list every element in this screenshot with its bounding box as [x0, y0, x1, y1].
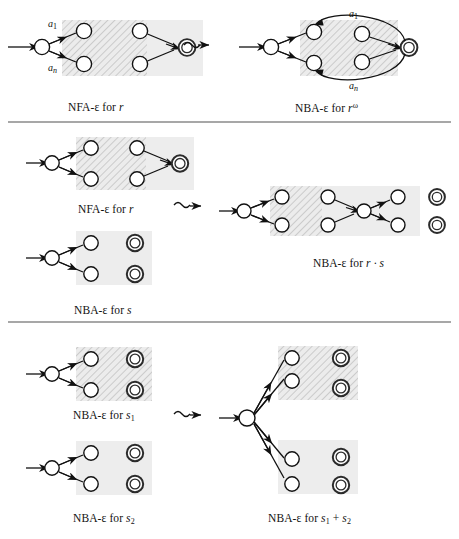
caption-nfa-r-2: NFA-ε for r: [78, 203, 134, 215]
state-node: [84, 141, 98, 155]
edge-label-an-result: an: [349, 80, 358, 93]
state-node: [132, 23, 147, 38]
transition-edge-arrow: [59, 262, 73, 268]
transition-edge-arrow: [251, 203, 265, 209]
accepting-state-inner: [130, 448, 140, 458]
accepting-state-inner: [175, 159, 185, 169]
merge-state-node: [357, 204, 371, 218]
state-node: [321, 190, 335, 204]
transition-edge-arrow: [59, 154, 73, 160]
accepting-state-inner: [432, 192, 441, 201]
transition-edge-arrow: [278, 51, 292, 57]
panel-union-result: [219, 346, 358, 494]
state-node: [391, 190, 405, 204]
transition-edge-arrow: [49, 39, 63, 45]
state-node: [84, 383, 98, 397]
initial-state-node: [45, 156, 59, 170]
state-node: [84, 446, 98, 460]
initial-state-node: [34, 39, 49, 54]
transition-edge-arrow: [251, 215, 265, 221]
edge-label-a1-result: a1: [349, 8, 358, 21]
transition-edge-arrow: [59, 365, 73, 371]
caption-nfa-r: NFA-ε for r: [68, 101, 124, 113]
state-node: [76, 23, 91, 38]
state-node: [306, 24, 321, 39]
state-node: [275, 190, 289, 204]
initial-state-node: [263, 39, 278, 54]
transition-edge-arrow: [59, 167, 73, 173]
initial-state-node: [45, 367, 59, 381]
state-node: [354, 54, 369, 69]
panel-omega-source: [8, 20, 203, 76]
accepting-state-inner: [130, 354, 140, 364]
transition-edge-arrow: [278, 39, 292, 45]
squiggly-arrow-2: [174, 203, 201, 208]
state-node: [354, 26, 369, 41]
initial-state-node: [45, 251, 59, 265]
accepting-state-inner: [432, 220, 441, 229]
accepting-state-inner: [130, 385, 140, 395]
state-node: [306, 55, 321, 70]
automata-construction-figure: a1 an a1 an NFA-ε for r NBA-ε for rω NFA…: [0, 0, 459, 539]
edge-label-an: an: [48, 62, 57, 75]
state-node: [391, 218, 405, 232]
accepting-state-inner: [130, 238, 140, 248]
figure-canvas: [0, 0, 459, 539]
state-node: [285, 374, 299, 388]
initial-state-node: [45, 461, 59, 475]
caption-nba-r-omega: NBA-ε for rω: [295, 101, 358, 114]
initial-state-node: [237, 204, 251, 218]
accepting-state-inner: [404, 42, 414, 52]
caption-nba-s: NBA-ε for s: [74, 304, 132, 316]
caption-nba-r-dot-s: NBA-ε for r · s: [313, 257, 384, 269]
state-node: [285, 477, 299, 491]
caption-nba-s2: NBA-ε for s2: [73, 512, 135, 526]
state-node: [285, 351, 299, 365]
state-node: [132, 56, 147, 71]
panel-union-source-s1: [26, 347, 152, 401]
accepting-state-inner: [336, 383, 346, 393]
transition-edge-arrow: [59, 472, 73, 478]
state-node: [275, 218, 289, 232]
state-node: [130, 141, 144, 155]
accepting-state-inner: [130, 479, 140, 489]
panel-omega-result: [239, 15, 417, 80]
state-node: [285, 452, 299, 466]
edge-label-a1: a1: [48, 18, 57, 31]
caption-nba-s1: NBA-ε for s1: [73, 409, 135, 423]
state-node: [321, 218, 335, 232]
accepting-state-inner: [130, 269, 140, 279]
panel-concat-result: [219, 186, 445, 236]
accepting-state-inner: [336, 452, 346, 462]
transition-edge-arrow: [59, 378, 73, 384]
transition-edge-arrow: [49, 51, 63, 57]
transition-edge-arrow: [59, 249, 73, 255]
state-node: [84, 352, 98, 366]
transition-edge-arrow: [59, 459, 73, 465]
squiggly-arrow-3: [174, 412, 201, 417]
panel-concat-source-s: [26, 231, 152, 285]
panel-concat-source-r: [26, 137, 194, 190]
state-node: [84, 172, 98, 186]
state-node: [84, 267, 98, 281]
state-node: [76, 56, 91, 71]
accepting-state-inner: [336, 353, 346, 363]
panel-union-source-s2: [26, 441, 152, 495]
state-node: [84, 477, 98, 491]
initial-state-node: [239, 410, 255, 426]
state-node: [84, 236, 98, 250]
state-node: [130, 172, 144, 186]
caption-nba-s1-plus-s2: NBA-ε for s1 + s2: [268, 512, 351, 526]
accepting-state-inner: [336, 480, 346, 490]
